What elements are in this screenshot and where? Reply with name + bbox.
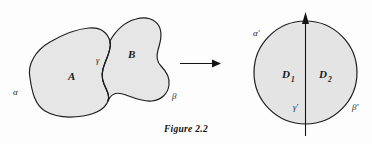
right-diagram-group: D 1 D 2 α′ γ′ β′ <box>253 12 359 136</box>
boundary-gamma-prime-label: γ′ <box>293 102 298 112</box>
map-arrow-head <box>212 60 221 68</box>
left-diagram-group: A B α γ β <box>13 18 177 117</box>
region-a-label: A <box>67 70 75 82</box>
region-d1-subscript: 1 <box>291 75 295 84</box>
figure-caption: Figure 2.2 <box>163 124 208 134</box>
boundary-beta-label: β <box>171 91 177 101</box>
region-b-shape <box>102 18 169 101</box>
mapping-arrow-group <box>180 60 221 68</box>
region-d2-subscript: 2 <box>327 75 332 84</box>
boundary-alpha-prime-label: α′ <box>253 28 261 38</box>
region-b-label: B <box>127 48 135 60</box>
figure-canvas: A B α γ β D 1 D 2 <box>0 0 372 144</box>
region-d1-letter: D <box>281 68 290 80</box>
boundary-beta-prime-label: β′ <box>351 102 359 112</box>
region-d2-letter: D <box>318 68 327 80</box>
boundary-alpha-label: α <box>13 87 18 97</box>
figure-2-2-container: A B α γ β D 1 D 2 <box>0 0 372 144</box>
vertical-axis-arrow-head <box>302 12 309 24</box>
